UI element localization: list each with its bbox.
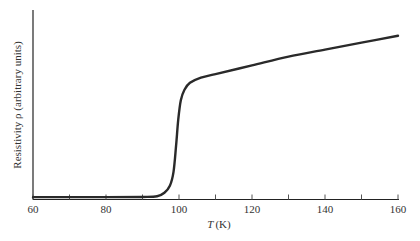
x-tick-label: 60	[28, 203, 40, 215]
x-tick-labels: 6080100120140160	[28, 203, 407, 215]
resistivity-curve	[33, 36, 398, 197]
x-axis-label: T(K)	[207, 218, 231, 231]
y-axis-label: Resistivity ρ (arbitrary units)	[11, 41, 24, 169]
x-tick-label: 140	[317, 203, 334, 215]
x-tick-label: 80	[101, 203, 113, 215]
resistivity-chart: 6080100120140160 Resistivity ρ (arbitrar…	[0, 0, 420, 241]
x-tick-label: 100	[171, 203, 188, 215]
x-tick-label: 160	[390, 203, 407, 215]
x-tick-label: 120	[244, 203, 261, 215]
